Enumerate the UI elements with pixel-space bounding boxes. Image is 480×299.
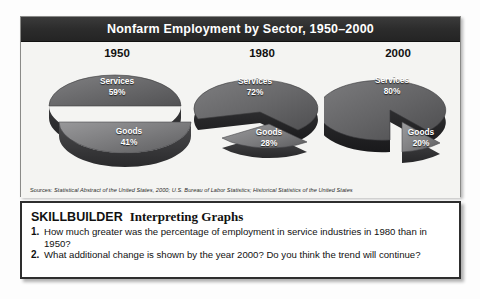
pie-chart-1980: Services 72% Goods 28%: [189, 64, 331, 173]
pie-1980-svg: [189, 64, 331, 169]
pie-1950-svg: [43, 64, 193, 169]
pie-charts-group: Services 59% Goods 41%: [21, 64, 460, 169]
skillbuilder-question-1: 1. How much greater was the percentage o…: [31, 226, 451, 249]
sources-line: Sources: Statistical Abstract of the Uni…: [30, 187, 451, 193]
pie-chart-2000: Services 80% Goods 20%: [324, 64, 474, 173]
skillbuilder-heading: SKILLBUILDERInterpreting Graphs: [31, 209, 459, 225]
chart-title: Nonfarm Employment by Sector, 1950–2000: [107, 22, 374, 36]
question-1-number: 1.: [31, 226, 44, 249]
chart-title-bar: Nonfarm Employment by Sector, 1950–2000: [21, 17, 460, 42]
skillbuilder-subtitle: Interpreting Graphs: [130, 209, 244, 224]
question-2-number: 2.: [31, 249, 44, 261]
figure-page: Nonfarm Employment by Sector, 1950–2000 …: [0, 0, 480, 299]
chart-panel: Nonfarm Employment by Sector, 1950–2000 …: [20, 16, 461, 197]
skillbuilder-box: SKILLBUILDERInterpreting Graphs 1. How m…: [20, 201, 461, 279]
pie-chart-1950: Services 59% Goods 41%: [43, 64, 193, 173]
year-label-1980: 1980: [249, 47, 275, 59]
skillbuilder-title: SKILLBUILDER: [31, 210, 123, 224]
sources-citations: Statistical Abstract of the United State…: [54, 187, 353, 193]
year-labels-row: 1950 1980 2000: [21, 47, 460, 63]
pie-1950-services-top: [49, 75, 181, 106]
question-2-text: What additional change is shown by the y…: [44, 249, 451, 261]
year-label-1950: 1950: [104, 47, 130, 59]
skillbuilder-question-2: 2. What additional change is shown by th…: [31, 249, 451, 261]
sources-label: Sources:: [30, 187, 54, 193]
year-label-2000: 2000: [385, 47, 411, 59]
chart-body: 1950 1980 2000: [21, 42, 460, 198]
pie-2000-svg: [324, 64, 474, 169]
question-1-text: How much greater was the percentage of e…: [44, 226, 451, 249]
